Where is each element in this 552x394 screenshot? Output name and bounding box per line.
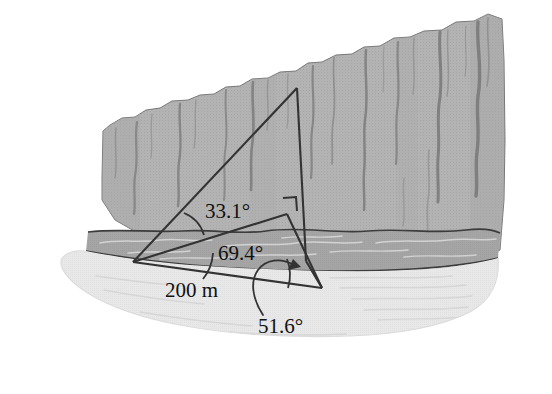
angle-label-69: 69.4° (218, 243, 263, 264)
angle-label-51: 51.6° (258, 316, 303, 337)
baseline-label-200m: 200 m (165, 280, 218, 301)
cliff-triangulation-figure: 33.1° 69.4° 200 m 51.6° (0, 0, 552, 394)
angle-label-33: 33.1° (205, 201, 250, 222)
